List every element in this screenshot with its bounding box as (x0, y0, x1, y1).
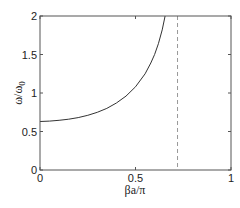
y-axis-label: ω/ω0 (11, 81, 27, 105)
y-tick-label: 0.5 (22, 126, 37, 138)
x-tick-label: 1 (228, 172, 234, 184)
plot-area (40, 16, 178, 170)
chart: 00.5100.511.52 βa/π ω/ω0 (0, 0, 240, 208)
y-tick-label: 2 (31, 10, 37, 22)
y-axis-label-subscript: 0 (17, 81, 27, 86)
x-tick-label: 0 (37, 172, 43, 184)
y-axis-label-main: ω/ω (11, 86, 25, 105)
plot-frame (40, 16, 231, 170)
dispersion-curve (40, 16, 165, 122)
axes: 00.5100.511.52 (22, 10, 234, 184)
x-axis-label: βa/π (125, 183, 146, 197)
y-tick-label: 0 (31, 164, 37, 176)
y-tick-label: 1.5 (22, 49, 37, 61)
y-tick-label: 1 (31, 87, 37, 99)
